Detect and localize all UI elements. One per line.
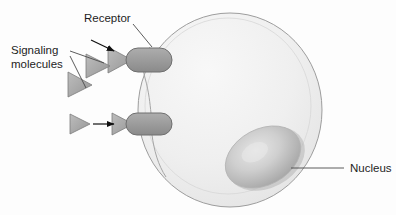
receptor-lower-group[interactable] — [112, 113, 172, 135]
receptor-label: Receptor — [84, 12, 131, 24]
ligand-approaching-lower — [70, 114, 90, 134]
nucleus-label: Nucleus — [350, 162, 392, 174]
signaling-molecules-label-line2: molecules — [11, 58, 63, 70]
signaling-molecules-label-line1: Signaling — [11, 44, 58, 56]
receptor-pointer-arrow — [91, 40, 114, 51]
diagram-canvas: Receptor Signaling molecules Nucleus — [0, 0, 396, 215]
receptor-upper-group[interactable] — [108, 47, 172, 73]
receptor-leader-line — [133, 24, 152, 47]
cell-signaling-diagram: Receptor Signaling molecules Nucleus — [0, 0, 396, 215]
receptor-upper[interactable] — [126, 48, 172, 72]
receptor-lower[interactable] — [126, 113, 172, 135]
